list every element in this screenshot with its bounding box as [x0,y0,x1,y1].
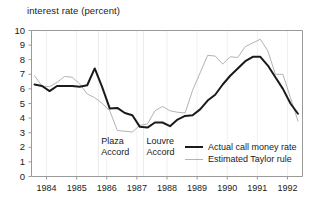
x-tick-label: 1986 [91,183,123,193]
chart-legend: Actual call money rate Estimated Taylor … [185,141,297,165]
annotation-line-2: Accord [101,147,129,158]
chart-figure: interest rate (percent) 109876543210 198… [0,0,319,205]
annotation-line-1: Louvre [147,136,175,147]
y-tick-label: 8 [5,54,25,65]
x-tick-label: 1991 [241,183,273,193]
x-tick-label: 1988 [151,183,183,193]
chart-plot-area [0,0,319,205]
legend-label-taylor: Estimated Taylor rule [208,153,292,165]
legend-line-icon-taylor [185,159,203,160]
y-tick-label: 3 [5,127,25,138]
legend-item-taylor: Estimated Taylor rule [185,153,297,165]
y-tick-label: 5 [5,98,25,109]
legend-item-actual: Actual call money rate [185,141,297,153]
annotation-line-2: Accord [147,147,175,158]
x-tick-label: 1984 [31,183,63,193]
x-tick-label: 1987 [121,183,153,193]
annotation-louvre: LouvreAccord [147,136,175,157]
annotation-line-1: Plaza [101,136,129,147]
y-tick-label: 7 [5,68,25,79]
x-tick-label: 1989 [181,183,213,193]
chart-series-layer [35,39,298,132]
y-tick-label: 2 [5,141,25,152]
y-tick-label: 1 [5,156,25,167]
annotation-plaza: PlazaAccord [101,136,129,157]
y-tick-label: 0 [5,171,25,182]
y-tick-label: 10 [5,25,25,36]
x-tick-label: 1992 [271,183,303,193]
x-tick-label: 1985 [61,183,93,193]
y-tick-label: 6 [5,83,25,94]
y-tick-label: 9 [5,39,25,50]
y-tick-label: 4 [5,112,25,123]
legend-label-actual: Actual call money rate [208,141,297,153]
x-tick-label: 1990 [211,183,243,193]
legend-line-icon-actual [185,146,203,148]
